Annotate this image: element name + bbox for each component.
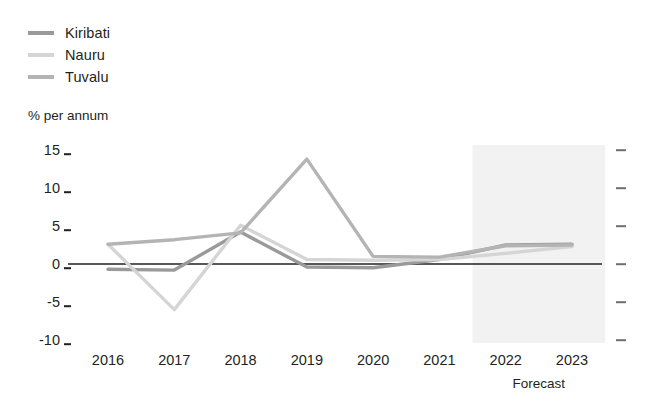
y-tick-mark-right	[616, 149, 626, 151]
x-tick-label: 2020	[343, 352, 403, 368]
y-tick-label: 10	[14, 180, 60, 196]
x-tick-label: 2016	[78, 352, 138, 368]
x-tick-label: 2022	[476, 352, 536, 368]
y-tick-mark-right	[616, 225, 626, 227]
y-tick-mark	[64, 343, 71, 345]
x-tick-label: 2017	[144, 352, 204, 368]
y-tick-label: 5	[14, 218, 60, 234]
y-tick-mark	[64, 153, 71, 155]
y-tick-mark-right	[616, 301, 626, 303]
y-tick-mark-right	[616, 339, 626, 341]
y-tick-label: -5	[14, 294, 60, 310]
x-tick-label: 2019	[277, 352, 337, 368]
y-tick-mark-right	[616, 187, 626, 189]
line-chart: Kiribati Nauru Tuvalu % per annum 151050…	[0, 0, 646, 407]
y-tick-label: 15	[14, 142, 60, 158]
x-tick-label: 2021	[409, 352, 469, 368]
y-tick-label: -10	[14, 332, 60, 348]
y-tick-mark	[64, 229, 71, 231]
x-tick-label: 2023	[542, 352, 602, 368]
x-tick-label: 2018	[211, 352, 271, 368]
y-tick-mark	[64, 191, 71, 193]
y-tick-mark	[64, 305, 71, 307]
y-tick-mark-right	[616, 263, 626, 265]
y-tick-mark	[64, 267, 71, 269]
forecast-caption: Forecast	[479, 376, 599, 391]
y-tick-label: 0	[14, 256, 60, 272]
plot-area	[0, 0, 646, 407]
